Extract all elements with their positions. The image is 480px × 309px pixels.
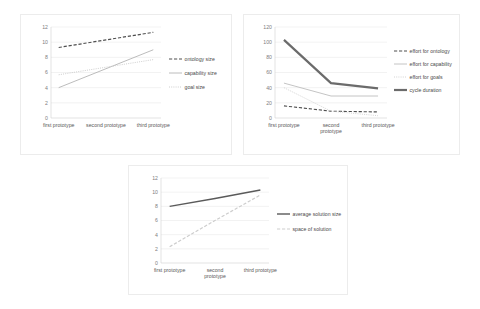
x-tick-label: first prototype: [268, 122, 300, 128]
y-tick-label: 2: [45, 100, 48, 106]
series-line-1: [59, 50, 154, 88]
series-line-0: [59, 32, 154, 47]
y-tick-label: 12: [152, 175, 158, 181]
chart-3-svg: 024681012first prototypesecondprototypet…: [129, 166, 349, 296]
x-tick-label: third prototype: [361, 122, 394, 128]
x-tick-label: prototype: [320, 128, 342, 134]
legend-label-0: ontology size: [185, 56, 215, 62]
y-tick-label: 60: [266, 69, 272, 75]
y-tick-label: 8: [155, 203, 158, 209]
series-line-0: [170, 190, 261, 206]
series-line-1: [170, 195, 261, 247]
x-tick-label: first prototype: [154, 267, 186, 273]
legend-label-2: effort for goals: [410, 74, 443, 80]
y-tick-label: 6: [155, 217, 158, 223]
chart-2-plot: 020406080100120first prototypesecondprot…: [244, 15, 459, 154]
y-tick-label: 120: [263, 24, 272, 30]
series-line-3: [284, 40, 378, 89]
chart-1-svg: 024681012first prototypesecond prototype…: [21, 15, 233, 156]
y-tick-label: 0: [269, 115, 272, 121]
y-tick-label: 2: [155, 246, 158, 252]
y-tick-label: 20: [266, 100, 272, 106]
y-tick-label: 10: [42, 39, 48, 45]
y-tick-label: 0: [45, 115, 48, 121]
y-tick-label: 6: [45, 69, 48, 75]
y-tick-label: 40: [266, 85, 272, 91]
y-tick-label: 0: [155, 260, 158, 266]
y-tick-label: 4: [155, 232, 158, 238]
legend-label-0: average solution size: [293, 211, 342, 217]
x-tick-label: third prototype: [137, 122, 170, 128]
legend-label-3: cycle duration: [410, 87, 442, 93]
legend-label-1: effort for capability: [410, 61, 453, 67]
y-tick-label: 10: [152, 189, 158, 195]
y-tick-label: 80: [266, 54, 272, 60]
x-tick-label: second: [207, 267, 224, 273]
chart-panel-2: 020406080100120first prototypesecondprot…: [243, 14, 460, 155]
legend-label-2: goal size: [185, 84, 206, 90]
legend-label-1: space of solution: [293, 226, 332, 232]
series-line-0: [284, 106, 378, 112]
chart-1-plot: 024681012first prototypesecond prototype…: [21, 15, 231, 154]
chart-panel-3: 024681012first prototypesecondprototypet…: [128, 165, 348, 295]
chart-3-plot: 024681012first prototypesecondprototypet…: [129, 166, 347, 294]
x-tick-label: prototype: [204, 273, 226, 279]
y-tick-label: 12: [42, 24, 48, 30]
y-tick-label: 100: [263, 39, 272, 45]
x-tick-label: second: [323, 122, 340, 128]
legend-label-1: capability size: [185, 70, 217, 76]
chart-2-svg: 020406080100120first prototypesecondprot…: [244, 15, 461, 156]
x-tick-label: second prototype: [86, 122, 126, 128]
y-tick-label: 4: [45, 85, 48, 91]
x-tick-label: first prototype: [43, 122, 75, 128]
series-line-1: [284, 83, 378, 96]
x-tick-label: third prototype: [244, 267, 277, 273]
legend-label-0: effort for ontology: [410, 48, 451, 54]
chart-panel-1: 024681012first prototypesecond prototype…: [20, 14, 232, 155]
y-tick-label: 8: [45, 54, 48, 60]
